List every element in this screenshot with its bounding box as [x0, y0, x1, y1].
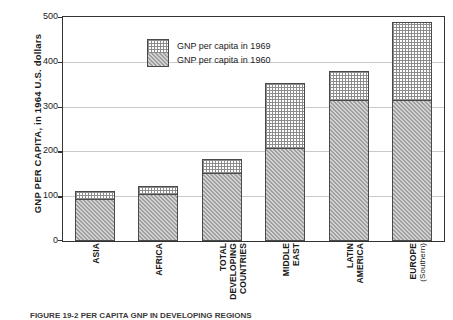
x-label-asia: ASIA [91, 243, 101, 264]
bar-total-developing-countries [202, 159, 242, 241]
bar-segment-1969 [329, 71, 369, 100]
legend: GNP per capita in 1969 GNP per capita in… [147, 39, 270, 67]
legend-label-1960: GNP per capita in 1960 [177, 55, 270, 65]
figure-container: GNP PER CAPITA, in 1964 U.S. dollars 500… [0, 0, 453, 320]
figure-caption: FIGURE 19-2 PER CAPITA GNP IN DEVELOPING… [30, 311, 252, 320]
bar-africa [138, 186, 178, 241]
y-axis-tick-labels: 500 400 300 200 100 0 [14, 16, 58, 240]
x-label-middle-east: MIDDLEEAST [281, 243, 301, 276]
y-tick-label-500: 500 [18, 11, 58, 21]
x-label-line: (Southern) [418, 243, 428, 282]
x-label-line: AMERICA [355, 243, 365, 283]
bar-middle-east [265, 83, 305, 241]
x-label-line: MIDDLE [281, 243, 291, 276]
legend-swatch-1969-icon [147, 39, 169, 53]
bar-segment-1960 [392, 100, 432, 241]
bar-segment-1960 [202, 173, 242, 241]
bar-segment-1969 [202, 159, 242, 173]
bar-segment-1969 [392, 22, 432, 100]
x-label-line: DEVELOPING [228, 243, 238, 300]
bar-segment-1960 [329, 100, 369, 241]
x-label-line: AFRICA [154, 243, 164, 276]
legend-label-1969: GNP per capita in 1969 [177, 41, 270, 51]
y-tick-label-0: 0 [18, 235, 58, 245]
legend-item-1960: GNP per capita in 1960 [147, 53, 270, 67]
legend-swatch-1960-icon [147, 53, 169, 67]
y-tick-label-100: 100 [18, 190, 58, 200]
x-label-line: EAST [291, 243, 301, 276]
bar-europe-southern [392, 22, 432, 241]
x-label-total-developing-countries: TOTALDEVELOPINGCOUNTRIES [218, 243, 248, 300]
bar-segment-1960 [75, 199, 115, 241]
x-label-line: TOTAL [218, 243, 228, 300]
bar-segment-1969 [75, 191, 115, 199]
x-axis-category-labels: ASIAAFRICATOTALDEVELOPINGCOUNTRIESMIDDLE… [62, 243, 443, 315]
y-tick-label-300: 300 [18, 101, 58, 111]
x-label-line: LATIN [345, 243, 355, 283]
x-label-line: ASIA [91, 243, 101, 264]
y-tick-label-200: 200 [18, 145, 58, 155]
y-tick-label-400: 400 [18, 56, 58, 66]
bar-segment-1960 [138, 194, 178, 241]
x-label-latin-america: LATINAMERICA [345, 243, 365, 283]
bar-segment-1969 [138, 186, 178, 194]
plot-area: GNP per capita in 1969 GNP per capita in… [62, 16, 445, 242]
x-label-europe-southern: EUROPE(Southern) [408, 243, 428, 282]
x-label-line: EUROPE [408, 243, 418, 282]
bar-segment-1960 [265, 148, 305, 241]
bar-segment-1969 [265, 83, 305, 148]
legend-item-1969: GNP per capita in 1969 [147, 39, 270, 53]
bar-asia [75, 191, 115, 241]
x-label-line: COUNTRIES [238, 243, 248, 300]
x-label-africa: AFRICA [154, 243, 164, 276]
bar-latin-america [329, 71, 369, 241]
